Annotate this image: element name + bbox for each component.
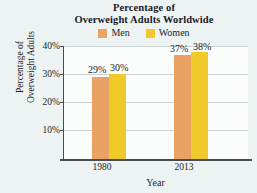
legend-label-women: Women xyxy=(159,28,190,38)
legend-item-men: Men xyxy=(98,28,129,38)
gridline-40 xyxy=(64,46,248,47)
y-tick-label-30: 30% xyxy=(34,70,60,80)
tick-mark-20 xyxy=(60,102,64,103)
chart-title-line-1: Percentage of xyxy=(36,2,252,14)
tick-mark-10 xyxy=(60,130,64,131)
y-tick-label-20: 20% xyxy=(34,98,60,108)
chart-title-line-2: Overweight Adults Worldwide xyxy=(36,14,252,26)
x-axis-title: Year xyxy=(63,177,248,188)
plot-area xyxy=(63,46,248,159)
bar-2013-men xyxy=(174,55,191,160)
bar-2013-women xyxy=(191,52,208,159)
y-axis-title-line-1: Percentage of xyxy=(15,0,26,141)
bar-1980-men xyxy=(92,77,109,159)
bar-1980-women xyxy=(109,74,126,159)
value-label-1980-women: 30% xyxy=(110,63,128,73)
chart-legend: Men Women xyxy=(36,28,252,38)
legend-label-men: Men xyxy=(111,28,129,38)
legend-swatch-women-icon xyxy=(146,29,155,38)
tick-mark-30 xyxy=(60,74,64,75)
chart-title: Percentage of Overweight Adults Worldwid… xyxy=(36,2,252,25)
y-axis-tick-labels: 40% 30% 20% 10% xyxy=(31,46,60,159)
y-tick-label-10: 10% xyxy=(34,126,60,136)
y-tick-label-40: 40% xyxy=(34,42,60,52)
value-label-2013-women: 38% xyxy=(193,42,211,52)
x-tick-label-1980: 1980 xyxy=(80,162,124,172)
legend-item-women: Women xyxy=(146,28,190,38)
legend-swatch-men-icon xyxy=(98,29,107,38)
value-label-1980-men: 29% xyxy=(88,65,106,75)
x-axis-line xyxy=(60,159,252,161)
bar-chart: Percentage of Overweight Adults Worldwid… xyxy=(0,0,257,193)
value-label-2013-men: 37% xyxy=(170,44,188,54)
tick-mark-40 xyxy=(60,46,64,47)
x-tick-label-2013: 2013 xyxy=(162,162,206,172)
